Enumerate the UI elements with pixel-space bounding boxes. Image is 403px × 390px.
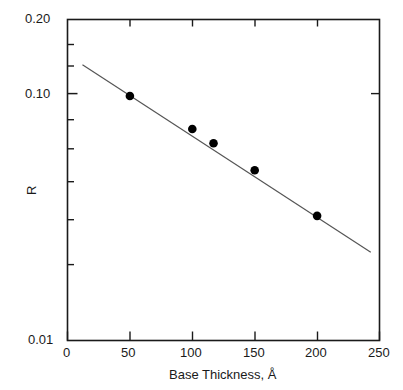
x-axis-ticks — [68, 332, 380, 341]
x-tick-label-200: 200 — [305, 345, 327, 360]
data-point — [313, 212, 322, 221]
x-tick-label-0: 0 — [63, 345, 70, 360]
y-axis-title: R — [24, 186, 39, 195]
x-axis-title: Base Thickness, Å — [169, 367, 276, 382]
data-point — [188, 125, 197, 134]
chart-figure: 0.20 0.10 0.01 0 50 100 150 200 250 R Ba… — [0, 0, 403, 390]
data-point — [126, 92, 135, 101]
y-tick-label-mid: 0.10 — [25, 86, 50, 101]
y-tick-label-top: 0.20 — [25, 11, 50, 26]
y-axis-minor-ticks — [68, 45, 75, 265]
y-tick-label-bottom: 0.01 — [28, 332, 53, 347]
x-tick-label-250: 250 — [368, 345, 390, 360]
x-axis-top-ticks — [130, 20, 318, 27]
plot-frame — [68, 20, 380, 341]
x-tick-label-100: 100 — [180, 345, 202, 360]
fit-line — [82, 65, 370, 252]
data-point — [250, 166, 259, 175]
chart-svg — [0, 0, 403, 390]
x-tick-label-150: 150 — [243, 345, 265, 360]
x-tick-label-50: 50 — [121, 345, 135, 360]
data-point — [209, 139, 218, 148]
